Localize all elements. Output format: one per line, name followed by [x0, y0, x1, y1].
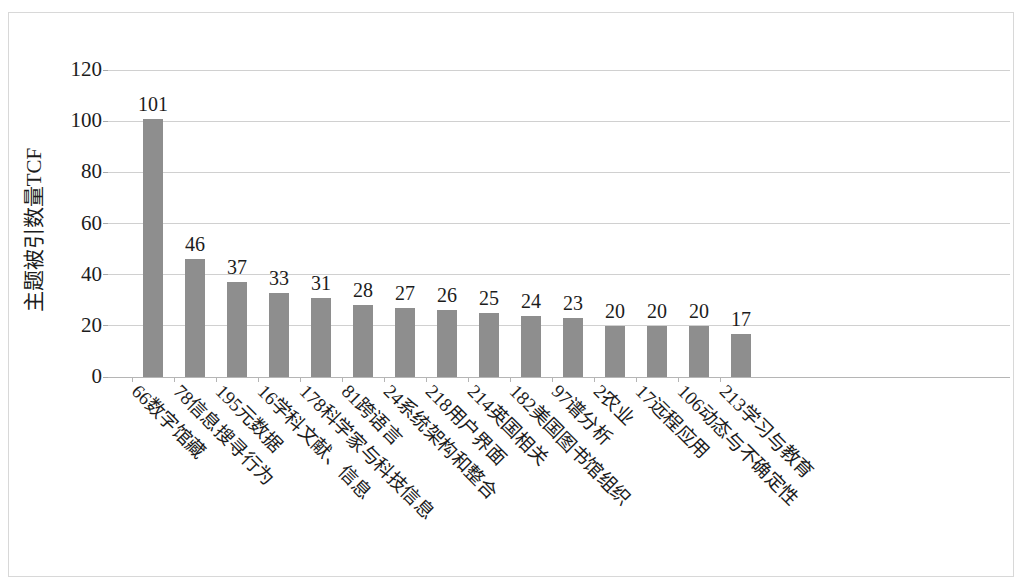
y-tick-mark — [103, 325, 108, 326]
bar[interactable] — [269, 293, 289, 377]
bar-value-label: 101 — [125, 94, 181, 114]
bar-column[interactable]: 46 — [174, 70, 216, 377]
bar[interactable] — [353, 305, 373, 377]
bar-chart-figure: 主题被引数量TCF 020406080100120 10146373331282… — [0, 0, 1023, 588]
bar-column[interactable]: 27 — [384, 70, 426, 377]
y-tick-label: 100 — [46, 110, 102, 131]
y-tick-mark — [103, 223, 108, 224]
bar[interactable] — [395, 308, 415, 377]
bar-column[interactable]: 31 — [300, 70, 342, 377]
bar[interactable] — [437, 310, 457, 377]
bar-column[interactable]: 28 — [342, 70, 384, 377]
y-tick-label: 60 — [46, 213, 102, 234]
bar[interactable] — [689, 326, 709, 377]
bar-column[interactable]: 20 — [594, 70, 636, 377]
y-tick-mark — [103, 172, 108, 173]
bar[interactable] — [143, 119, 163, 377]
y-tick-label: 40 — [46, 264, 102, 285]
bar[interactable] — [521, 316, 541, 377]
bar-column[interactable]: 25 — [468, 70, 510, 377]
plot-area: 1014637333128272625242320202017 — [108, 70, 1010, 377]
bar-column[interactable]: 37 — [216, 70, 258, 377]
bar[interactable] — [731, 334, 751, 377]
bar-column[interactable]: 24 — [510, 70, 552, 377]
bar[interactable] — [647, 326, 667, 377]
y-axis-title: 主题被引数量TCF — [17, 100, 47, 360]
bar[interactable] — [605, 326, 625, 377]
y-tick-mark — [103, 70, 108, 71]
bar-column[interactable]: 17 — [720, 70, 762, 377]
y-axis-tick-labels: 020406080100120 — [44, 70, 102, 377]
y-tick-mark — [103, 121, 108, 122]
y-tick-label: 120 — [46, 59, 102, 80]
y-tick-label: 20 — [46, 315, 102, 336]
bar-column[interactable]: 20 — [678, 70, 720, 377]
bar-column[interactable]: 23 — [552, 70, 594, 377]
bar[interactable] — [311, 298, 331, 377]
bar-column[interactable]: 101 — [132, 70, 174, 377]
bar[interactable] — [185, 259, 205, 377]
y-tick-label: 80 — [46, 161, 102, 182]
bar-column[interactable]: 33 — [258, 70, 300, 377]
bar-column[interactable]: 26 — [426, 70, 468, 377]
bar-value-label: 17 — [713, 309, 769, 329]
x-axis-tick-labels: 66数字馆藏78信息搜寻行为195元数据16学科文献、信息178科学家与科技信息… — [108, 377, 1018, 577]
bar[interactable] — [479, 313, 499, 377]
bar[interactable] — [227, 282, 247, 377]
y-tick-label: 0 — [46, 366, 102, 387]
bar[interactable] — [563, 318, 583, 377]
bar-column[interactable]: 20 — [636, 70, 678, 377]
y-tick-mark — [103, 274, 108, 275]
bar-value-label: 46 — [167, 234, 223, 254]
